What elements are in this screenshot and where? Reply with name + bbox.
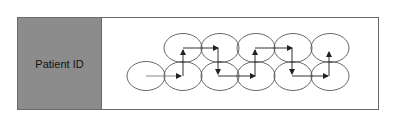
ellipse-top-4 <box>311 34 349 63</box>
ellipse-group <box>127 34 349 91</box>
scan-path-diagram <box>0 0 400 125</box>
